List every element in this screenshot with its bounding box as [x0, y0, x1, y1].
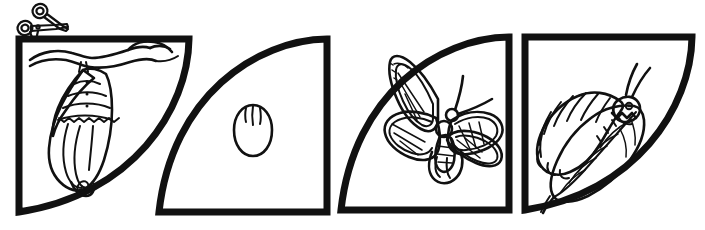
scissors-icon	[16, 3, 68, 40]
worksheet-artwork	[0, 0, 705, 230]
caterpillar-eye	[628, 105, 631, 108]
butterfly-panel-border	[341, 37, 509, 210]
chrysalis-dot	[86, 93, 89, 96]
chrysalis-dot	[86, 105, 89, 108]
butterfly-panel[interactable]	[341, 37, 509, 210]
worksheet-canvas	[0, 0, 705, 230]
caterpillar-panel[interactable]	[525, 37, 692, 213]
chrysalis-dot	[86, 81, 89, 84]
